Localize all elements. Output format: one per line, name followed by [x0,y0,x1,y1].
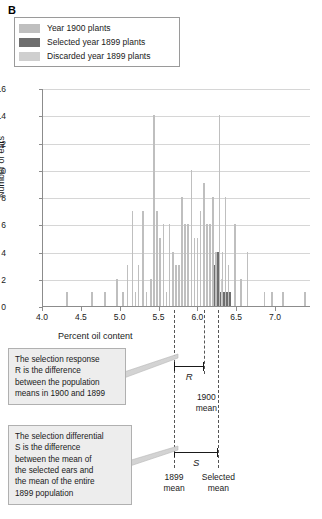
legend-item-discarded1899: Discarded year 1899 plants [19,49,175,63]
x-tick-mark [275,307,276,311]
histogram-bar [187,224,189,306]
x-tick-label: 6.5 [230,312,242,322]
histogram-bar [226,292,228,306]
histogram-bar [122,292,124,306]
x-tick-label: 6.0 [191,312,203,322]
bracket-label-R: R [186,371,193,382]
histogram-bar [240,279,242,306]
histogram-bar [225,197,227,306]
y-tick-mark [39,253,42,254]
histogram-bar [159,238,161,306]
legend-label-discarded1899: Discarded year 1899 plants [47,51,150,61]
histogram-bar [150,279,152,306]
callout-response-line1: The selection response [15,354,119,365]
histogram-bar [169,224,171,306]
legend-item-year1900: Year 1900 plants [19,21,175,35]
x-tick-mark [120,307,121,311]
histogram-bar [116,279,118,306]
histogram-bar [153,115,155,306]
histogram-bar [234,224,236,306]
y-tick-mark [39,116,42,117]
mean-label-1899-line1: 1899 [163,472,184,483]
callout-differential-line2: S is the difference [15,442,125,453]
legend-label-year1900: Year 1900 plants [47,23,111,33]
histogram-bar [132,211,134,306]
histogram-bar [264,292,266,306]
y-tick-mark [39,280,42,281]
legend-swatch-year1900 [19,24,40,33]
callout-differential-line6: 1899 population [15,488,125,499]
mean-label-1899: 1899 mean [163,472,184,493]
histogram-bar [172,252,174,307]
x-tick-mark [197,307,198,311]
y-tick-label: 0 [0,302,6,312]
histogram-bar [163,224,165,306]
histogram-bar [181,197,183,306]
mean-label-selected-line2: mean [202,483,235,494]
mean-line-1900 [204,310,205,374]
legend: Year 1900 plants Selected year 1899 plan… [14,17,180,67]
y-tick-mark [39,198,42,199]
x-tick-label: 5.5 [153,312,165,322]
histogram-bar [127,265,129,306]
histogram-bar [138,265,140,306]
mean-label-selected-line1: Selected [202,472,235,483]
histogram-bar [178,265,180,306]
histogram-bar [166,292,168,306]
y-tick-label: 2 [0,275,6,285]
mean-label-1900-line1: 1900 [196,392,217,403]
histogram-bar [146,292,148,306]
callout-response-line4: means in 1900 and 1899 [15,388,119,399]
legend-swatch-selected1899 [19,38,40,47]
x-tick-mark [42,307,43,311]
callout-differential-line3: between the mean of [15,454,125,465]
legend-swatch-discarded1899 [19,52,40,61]
histogram-bar [221,279,223,306]
callout-pointer-response [118,352,180,384]
histogram-bar [229,292,231,306]
y-tick-label: 14 [0,111,6,121]
histogram-bars [43,89,310,306]
panel-letter: B [8,4,16,16]
callout-differential-line4: the selected ears and [15,465,125,476]
legend-item-selected1899: Selected year 1899 plants [19,35,175,49]
histogram-bar [214,265,216,306]
histogram-bar [135,292,137,306]
mean-label-1899-line2: mean [163,483,184,494]
x-tick-label: 4.5 [75,312,87,322]
y-tick-mark [39,89,42,90]
histogram-bar [209,224,211,306]
mean-label-1900-line2: mean [196,403,217,414]
x-tick-label: 4.0 [36,312,48,322]
x-tick-mark [236,307,237,311]
histogram-bar [156,211,158,306]
callout-response-line3: between the population [15,377,119,388]
histogram-bar [217,252,219,307]
y-axis-label: Number of ears [0,136,6,198]
y-tick-label: 6 [0,220,6,230]
histogram-bar [200,211,202,306]
histogram-bar [304,292,306,306]
histogram-bar [219,115,221,306]
histogram-bar [66,292,68,306]
x-tick-label: 5.0 [114,312,126,322]
histogram-bar [282,292,284,306]
y-tick-label: 4 [0,248,6,258]
histogram-bar [194,238,196,306]
x-axis-label: Percent oil content [58,331,133,341]
histogram-bar [142,211,144,306]
callout-differential-line5: the mean of the entire [15,476,125,487]
x-tick-mark [81,307,82,311]
histogram-plot-area [42,89,310,307]
histogram-bar [203,183,205,306]
histogram-bar [91,292,93,306]
histogram-bar [104,292,106,306]
bracket-label-S: S [193,457,199,468]
mean-label-1900: 1900 mean [196,392,217,413]
y-tick-mark [39,144,42,145]
histogram-bar [191,170,193,306]
histogram-bar [197,238,199,306]
y-tick-label: 16 [0,84,6,94]
histogram-bar [206,224,208,306]
x-tick-mark [159,307,160,311]
